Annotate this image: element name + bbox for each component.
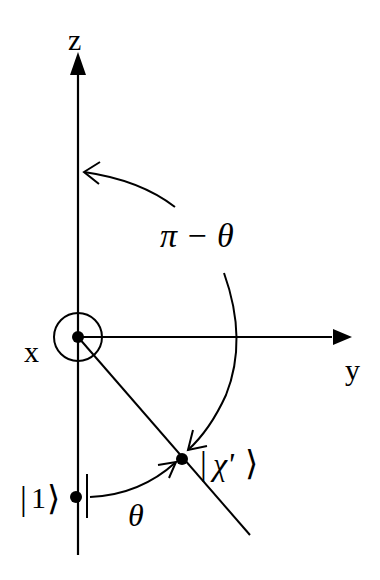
y-axis <box>78 329 352 345</box>
z-axis-label: z <box>68 23 81 56</box>
x-axis-label: x <box>24 335 39 368</box>
state-direction-line <box>78 337 250 535</box>
rotated-state-dot <box>176 453 188 465</box>
rotated-state-ket-inner: χ' <box>210 446 235 482</box>
rotated-state-ket-open: | <box>200 445 207 482</box>
upper-arc-label: π − θ <box>160 217 234 254</box>
rotated-state-ket-close: ⟩ <box>245 445 258 482</box>
basis-state-ket-inner: 1 <box>31 481 46 514</box>
y-axis-arrowhead <box>333 329 352 345</box>
descending-rotation-arc <box>188 273 237 450</box>
basis-state-ket-close: ⟩ <box>47 480 60 517</box>
upper-rotation-arc <box>84 172 175 207</box>
lower-arc-label: θ <box>128 497 144 533</box>
bloch-diagram: z y x π − θ | χ' ⟩ | 1 ⟩ θ <box>0 0 380 580</box>
lower-rotation-arc <box>90 462 176 497</box>
y-axis-label: y <box>345 353 360 386</box>
basis-state-dot <box>70 491 82 503</box>
z-axis <box>70 52 86 555</box>
basis-state-ket-open: | <box>20 480 27 517</box>
